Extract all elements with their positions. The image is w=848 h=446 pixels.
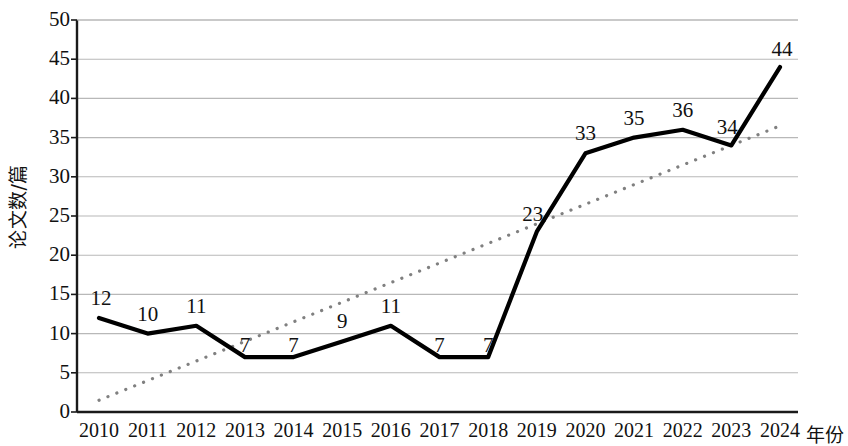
x-axis-title: 年份	[806, 420, 844, 446]
data-point-label: 11	[169, 296, 223, 317]
data-point-label: 23	[506, 204, 560, 225]
data-point-label: 34	[700, 117, 754, 138]
line-chart: 论文数/篇 05101520253035404550 1210117791177…	[0, 0, 848, 446]
gridlines	[77, 20, 798, 373]
data-point-label: 9	[315, 311, 369, 332]
x-axis-tick-labels: 2010201120122013201420152016201720182019…	[0, 418, 848, 446]
data-point-label: 7	[267, 335, 321, 356]
data-point-label: 10	[121, 304, 175, 325]
data-point-label: 33	[558, 123, 612, 144]
plot-area	[0, 0, 848, 446]
data-point-label: 44	[755, 39, 809, 60]
data-point-label: 11	[364, 296, 418, 317]
data-point-label: 7	[461, 335, 515, 356]
data-point-label: 7	[218, 335, 272, 356]
x-tick-label: 2024	[750, 418, 810, 442]
data-point-label: 35	[607, 108, 661, 129]
data-point-label: 7	[413, 335, 467, 356]
